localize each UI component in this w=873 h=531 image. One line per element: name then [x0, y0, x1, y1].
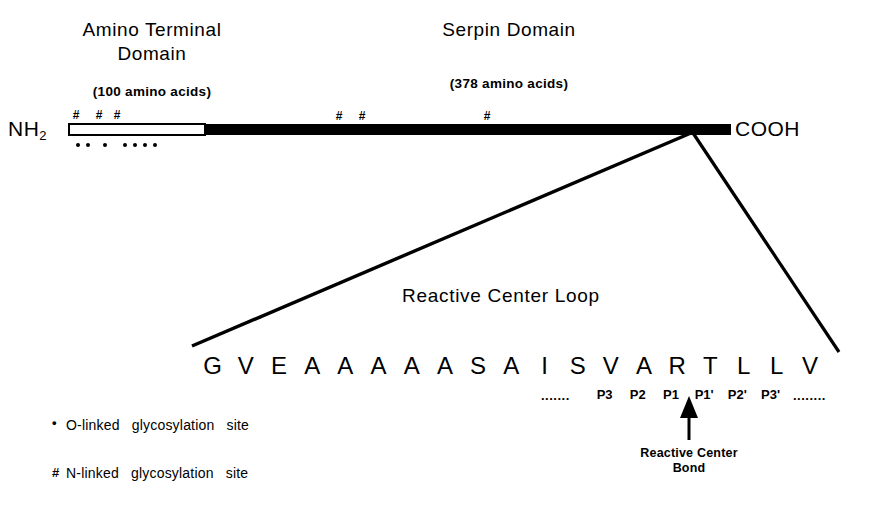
serpin-domain-title: Serpin Domain — [378, 18, 640, 42]
legend-text-part3: site — [227, 418, 250, 432]
p-label-p3-prime: P3' — [754, 387, 787, 402]
o-linked-glyc-marker — [133, 143, 137, 147]
leader-line-right — [693, 133, 839, 352]
residue: V — [793, 352, 826, 380]
residue: G — [196, 352, 229, 380]
residue: R — [661, 352, 694, 380]
residue: S — [561, 352, 594, 380]
residue: L — [760, 352, 793, 380]
residue: S — [462, 352, 495, 380]
amino-terminal-domain-title: Amino Terminal Domain — [36, 18, 268, 67]
p-label-p2-prime: P2' — [721, 387, 754, 402]
p-site-labels: P3 P2 P1 P1' P2' P3' — [588, 387, 787, 402]
n-linked-glyc-marker: # — [94, 109, 104, 121]
n-linked-glyc-marker: # — [112, 109, 122, 121]
p-label-p3: P3 — [588, 387, 621, 402]
residue: A — [495, 352, 528, 380]
amino-terminal-domain-bar — [68, 123, 206, 136]
p-label-p1: P1 — [654, 387, 687, 402]
residue: A — [329, 352, 362, 380]
residue: L — [727, 352, 760, 380]
legend-text-part2: glycosylation — [132, 418, 215, 432]
legend-text-part1: O-linked — [66, 418, 120, 432]
reactive-center-bond-caption: Reactive Center Bond — [614, 446, 764, 477]
o-linked-glyc-marker — [76, 143, 80, 147]
serpin-domain-diagram: Amino Terminal Domain (100 amino acids) … — [0, 0, 873, 531]
leader-line-left — [192, 133, 691, 346]
n-linked-hash-icon: # — [52, 466, 66, 479]
residue: A — [296, 352, 329, 380]
residue: V — [594, 352, 627, 380]
residue: V — [229, 352, 262, 380]
residue: E — [262, 352, 295, 380]
n-terminus-subscript: 2 — [39, 128, 47, 143]
legend-text-part2: glycosylation — [131, 466, 214, 480]
serpin-domain-bar — [204, 124, 731, 135]
legend-item-n-linked: # N-linked glycosylation site — [52, 466, 248, 480]
o-linked-glyc-marker — [123, 143, 127, 147]
legend-text-part1: N-linked — [66, 466, 119, 480]
p-label-p2: P2 — [621, 387, 654, 402]
residue: I — [528, 352, 561, 380]
p-label-right-ellipsis: ........ — [793, 388, 826, 403]
p-label-left-ellipsis: ....... — [541, 388, 570, 403]
o-linked-glyc-marker — [153, 143, 157, 147]
c-terminus-label: COOH — [735, 117, 800, 141]
residue: A — [395, 352, 428, 380]
legend-text-part3: site — [226, 466, 249, 480]
o-linked-glyc-marker — [86, 143, 90, 147]
n-linked-glyc-marker: # — [71, 109, 81, 121]
residue: A — [627, 352, 660, 380]
reactive-center-loop-title: Reactive Center Loop — [402, 285, 600, 307]
o-linked-glyc-marker — [143, 143, 147, 147]
n-terminus-base: NH — [8, 117, 39, 140]
n-linked-glyc-marker: # — [357, 110, 367, 122]
residue: T — [694, 352, 727, 380]
n-linked-glyc-marker: # — [482, 110, 492, 122]
reactive-center-loop-sequence: G V E A A A A A S A I S V A R T L L V — [196, 352, 827, 380]
residue: A — [362, 352, 395, 380]
serpin-domain-size: (378 amino acids) — [378, 76, 640, 91]
legend-item-o-linked: • O-linked glycosylation site — [52, 418, 249, 432]
n-linked-glyc-marker: # — [334, 110, 344, 122]
n-terminus-label: NH2 — [8, 117, 47, 141]
p-label-p1-prime: P1' — [688, 387, 721, 402]
o-linked-glyc-marker — [103, 143, 107, 147]
residue: A — [428, 352, 461, 380]
o-linked-dot-icon: • — [52, 416, 66, 429]
amino-terminal-domain-size: (100 amino acids) — [36, 84, 268, 99]
